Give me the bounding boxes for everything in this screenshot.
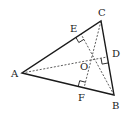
foot-label-d: D bbox=[112, 48, 120, 59]
orthocenter-label-o: O bbox=[80, 61, 88, 72]
foot-label-e: E bbox=[70, 23, 77, 34]
vertex-label-a: A bbox=[10, 68, 19, 79]
vertex-label-c: C bbox=[98, 7, 106, 18]
right-angle-mark-d bbox=[101, 58, 108, 64]
vertex-label-b: B bbox=[112, 100, 119, 111]
triangle-diagram: A B C D E F O bbox=[0, 0, 127, 117]
foot-label-f: F bbox=[78, 92, 85, 103]
right-angle-mark-f bbox=[78, 81, 85, 87]
